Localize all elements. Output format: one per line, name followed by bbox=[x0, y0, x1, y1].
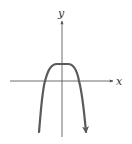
x-axis-label: x bbox=[116, 75, 123, 88]
curve bbox=[39, 64, 86, 132]
y-axis-label: y bbox=[57, 7, 65, 20]
graph: x y bbox=[0, 0, 132, 144]
